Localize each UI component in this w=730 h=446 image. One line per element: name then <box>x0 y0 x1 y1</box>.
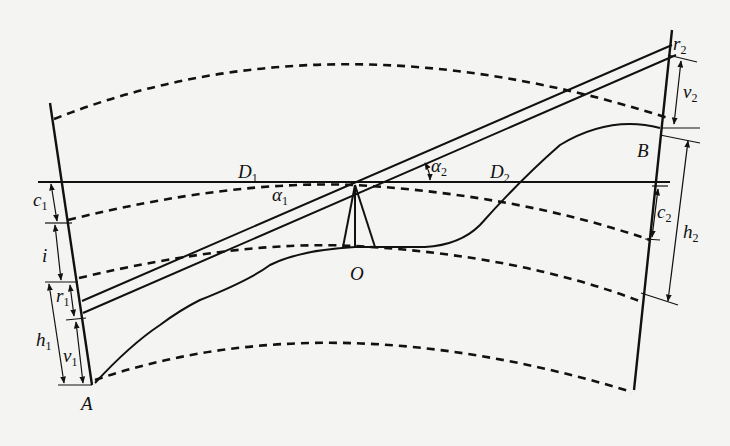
label-v1: v1 <box>63 345 77 369</box>
dim-c1 <box>51 184 57 221</box>
label-c1: c1 <box>33 189 47 213</box>
label-v2: v2 <box>683 81 697 105</box>
label-point-b: B <box>637 140 649 161</box>
label-alpha2: α2 <box>431 155 447 179</box>
vertical-line-b <box>634 30 672 390</box>
label-alpha1: α1 <box>272 184 288 208</box>
vertical-line-a <box>50 103 92 385</box>
label-h1: h1 <box>36 329 52 353</box>
dim-v2 <box>674 61 681 124</box>
level-surface-top <box>54 64 668 119</box>
dim-r1 <box>70 285 74 316</box>
label-r2: r2 <box>673 33 686 57</box>
label-d2: D2 <box>489 161 510 185</box>
level-surface-a <box>95 343 632 392</box>
sight-line-lower <box>83 55 676 313</box>
label-i: i <box>42 245 47 266</box>
label-point-a: A <box>79 393 93 414</box>
label-r1: r1 <box>56 285 69 309</box>
label-c2: c2 <box>657 201 671 225</box>
label-point-o: O <box>350 263 364 284</box>
sight-line-upper <box>82 45 672 301</box>
dim-i <box>55 225 61 280</box>
label-h2: h2 <box>683 221 699 245</box>
angle-arc-alpha2 <box>425 163 430 180</box>
dim-v1 <box>76 322 83 383</box>
instrument-tripod <box>343 185 375 247</box>
label-d1: D1 <box>237 161 258 185</box>
leveling-diagram: A B O D1 D2 α1 α2 c1 i r1 h1 v1 r2 v2 c2… <box>0 0 730 446</box>
